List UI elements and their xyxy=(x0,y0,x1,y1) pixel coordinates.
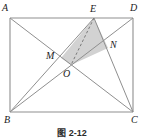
segment-BE xyxy=(10,18,94,112)
vertex-label-D: D xyxy=(130,3,137,13)
vertex-label-O: O xyxy=(63,69,70,79)
vertex-label-N: N xyxy=(110,40,117,50)
vertex-label-A: A xyxy=(2,3,8,13)
vertex-label-E: E xyxy=(90,4,96,14)
segment-CE xyxy=(94,18,133,112)
vertex-label-C: C xyxy=(131,115,138,125)
figure-canvas xyxy=(0,0,144,138)
figure-caption: 图 2-12 xyxy=(0,128,144,138)
vertex-label-B: B xyxy=(4,115,10,125)
shaded-region-mens xyxy=(61,18,108,65)
vertex-label-M: M xyxy=(46,51,54,61)
geometry-figure: A D B C E M N O 图 2-12 xyxy=(0,0,144,138)
